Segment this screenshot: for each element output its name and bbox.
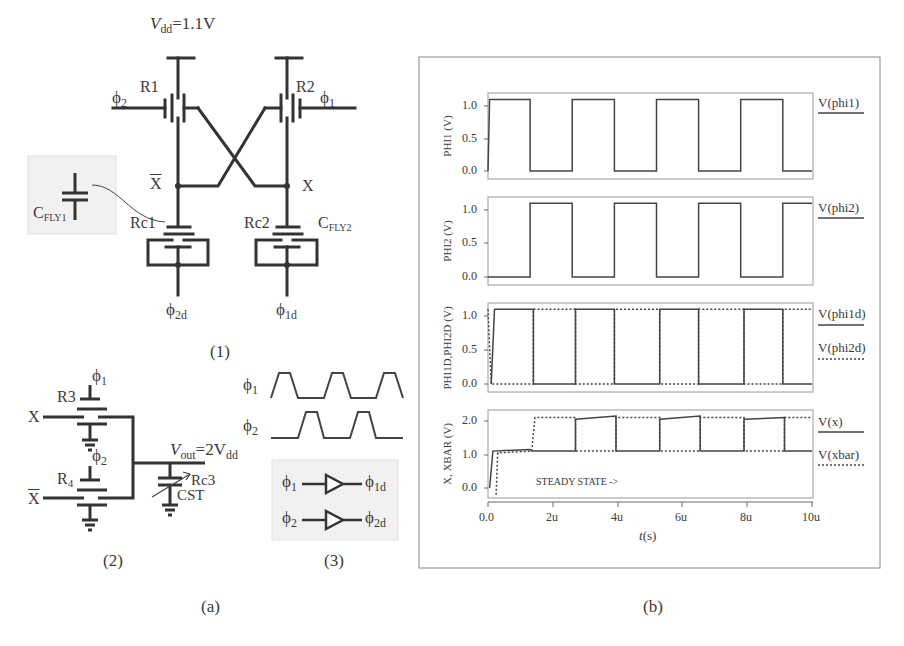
junction-dot: [284, 262, 290, 268]
circuit-2-caption: (2): [103, 551, 123, 571]
r4-label: R4: [57, 470, 73, 489]
legend-phi2d: V(phi2d): [818, 340, 866, 356]
waveform-phi1-label: ϕ1: [243, 375, 258, 398]
cst-label: CST: [177, 487, 205, 504]
rc1-label: Rc1: [130, 214, 156, 232]
xbar-input-label: X: [28, 490, 40, 508]
plot3-ytick: 1.0: [462, 308, 477, 323]
phi1d-output-label: ϕ1d: [276, 300, 297, 323]
plot1-ytick: 0.5: [462, 131, 477, 146]
plot4-ytick: 0.0: [462, 480, 477, 495]
buffer2-out-label: ϕ2d: [365, 508, 386, 531]
circuit-1-caption: (1): [210, 342, 230, 362]
plot3-ylabel: PHI1D,PHI2D (V): [441, 306, 453, 389]
plot2-ytick: 0.0: [462, 269, 477, 284]
plot1-ylabel: PHI1 (V): [441, 115, 453, 156]
panel-a-caption: (a): [201, 597, 220, 617]
plot2-ylabel: PHI2 (V): [441, 220, 453, 261]
legend-xbar: V(xbar): [818, 447, 859, 463]
trace-vphi1: [488, 100, 812, 172]
x-tick: 8u: [740, 510, 752, 525]
phi2-input-label: ϕ2: [112, 88, 127, 111]
x-tick: 2u: [546, 510, 558, 525]
plot1-ytick: 0.0: [462, 163, 477, 178]
r3-label: R3: [57, 388, 76, 406]
r3-gate-phi1-label: ϕ1: [92, 366, 107, 389]
junction-dot: [175, 262, 181, 268]
trace-vphi2: [488, 203, 812, 277]
circuit-3-waveforms: [271, 373, 403, 438]
cfly2-label: CFLY2: [318, 214, 352, 233]
panel-b-caption: (b): [643, 597, 663, 617]
node-xbar-dot: [175, 183, 181, 189]
legend-x: V(x): [818, 414, 843, 430]
legend-phi1d: V(phi1d): [818, 306, 866, 322]
vout-label: Vout=2Vdd: [170, 440, 238, 463]
node-x-dot: [284, 183, 290, 189]
x-axis-label: t(s): [639, 528, 656, 544]
x-axis: [488, 502, 813, 507]
plot4-ylabel: X, XBAR (V): [441, 423, 453, 485]
plot4-ytick: 1.0: [462, 447, 477, 462]
x-node-label: X: [302, 177, 314, 195]
plot1-ytick: 1.0: [462, 98, 477, 113]
r4-gate-phi2-label: ϕ2: [92, 446, 107, 469]
cfly1-label: CFLY1: [33, 204, 67, 223]
phi2d-output-label: ϕ2d: [166, 300, 187, 323]
xbar-node-label: X: [150, 175, 162, 193]
legend-phi2: V(phi2): [818, 200, 859, 216]
r1-label: R1: [140, 78, 159, 96]
x-tick: 6u: [675, 510, 687, 525]
buffer1-out-label: ϕ1d: [365, 472, 386, 495]
rc2-label: Rc2: [244, 214, 270, 232]
y-ticks: [484, 106, 488, 488]
x-tick: 0.0: [479, 510, 494, 525]
waveform-phi2-label: ϕ2: [243, 416, 258, 439]
trace-vphi1d: [491, 309, 812, 384]
plot3-ytick: 0.0: [462, 376, 477, 391]
r2-label: R2: [296, 78, 315, 96]
legend-phi1: V(phi1): [818, 95, 859, 111]
legend-swatches: [818, 113, 864, 465]
x-input-label: X: [28, 408, 40, 426]
x-tick: 10u: [802, 510, 820, 525]
plot4-ytick: 2.0: [462, 413, 477, 428]
buffer1-in-label: ϕ1: [282, 472, 297, 495]
plot3-ytick: 0.5: [462, 342, 477, 357]
plot-traces: [488, 100, 812, 495]
plot2-ytick: 1.0: [462, 202, 477, 217]
plot2-ytick: 0.5: [462, 235, 477, 250]
trace-vphi2d: [488, 309, 812, 384]
x-tick: 4u: [611, 510, 623, 525]
vdd-label: Vdd=1.1V: [150, 14, 215, 37]
steady-state-annotation: STEADY STATE ->: [536, 476, 618, 487]
circuit-3-caption: (3): [324, 551, 344, 571]
buffer2-in-label: ϕ2: [282, 508, 297, 531]
phi1-input-label: ϕ1: [320, 88, 335, 111]
plot-frames: [488, 93, 813, 498]
